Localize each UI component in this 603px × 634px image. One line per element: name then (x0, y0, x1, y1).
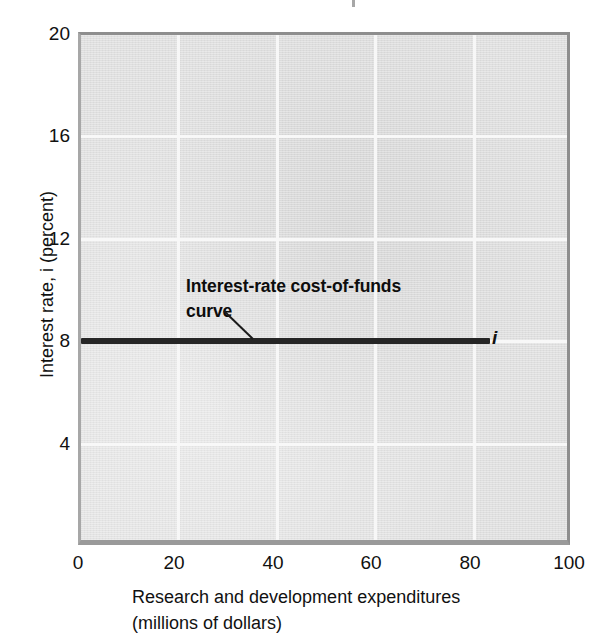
x-axis-title-line2: (millions of dollars) (132, 610, 552, 634)
gridline-horizontal-4 (81, 443, 567, 446)
gridline-vertical-20 (177, 35, 180, 540)
y-axis-tick-labels: 20 16 12 8 4 (0, 0, 70, 634)
gridline-vertical-80 (473, 35, 476, 540)
curve-symbol-label: i (492, 328, 497, 347)
y-axis-title: Interest rate, i (percent) (37, 135, 58, 435)
figure-container: i Interest-rate cost-of-funds curve 20 1… (0, 0, 603, 634)
x-tick-label-40: 40 (243, 553, 303, 572)
gridline-horizontal-16 (81, 135, 567, 138)
x-tick-label-20: 20 (144, 553, 204, 572)
scan-artifact (352, 0, 355, 7)
x-tick-label-0: 0 (48, 553, 108, 572)
curve-annotation-line1: Interest-rate cost-of-funds (186, 274, 431, 299)
x-tick-label-60: 60 (341, 553, 401, 572)
curve-annotation-line2: curve (186, 299, 431, 324)
y-tick-label-4: 4 (2, 434, 70, 453)
curve-annotation: Interest-rate cost-of-funds curve (186, 274, 431, 325)
y-tick-label-20: 20 (2, 24, 70, 43)
x-axis-title: Research and development expenditures (m… (132, 584, 552, 634)
x-tick-label-80: 80 (440, 553, 500, 572)
gridline-horizontal-12 (81, 238, 567, 241)
interest-rate-cost-of-funds-curve (81, 338, 490, 344)
x-tick-label-100: 100 (539, 553, 599, 572)
x-axis-title-line1: Research and development expenditures (132, 584, 552, 610)
